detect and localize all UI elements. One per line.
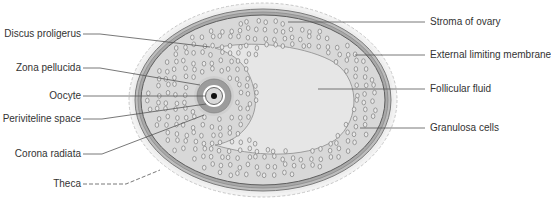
granulosa-cell (166, 90, 170, 95)
granulosa-cell (228, 43, 232, 48)
granulosa-cell (166, 138, 170, 143)
granulosa-cell (172, 67, 176, 72)
granulosa-cell (236, 59, 240, 64)
granulosa-cell (247, 115, 251, 120)
granulosa-cell (264, 37, 268, 42)
granulosa-cell (228, 51, 232, 56)
granulosa-cell (244, 67, 248, 72)
granulosa-cell (247, 52, 251, 57)
granulosa-cell (238, 28, 242, 33)
granulosa-cell (311, 163, 315, 168)
granulosa-cell (248, 102, 252, 107)
granulosa-cell (230, 139, 234, 144)
granulosa-cell (238, 82, 242, 87)
granulosa-cell (237, 51, 241, 56)
granulosa-cell (346, 43, 350, 48)
granulosa-cell (158, 69, 162, 74)
granulosa-cell (203, 146, 207, 151)
granulosa-cell (253, 37, 257, 42)
granulosa-cell (353, 140, 357, 145)
granulosa-cell (148, 107, 152, 112)
granulosa-cell (289, 27, 293, 32)
granulosa-cell (166, 130, 170, 135)
granulosa-cell (236, 67, 240, 72)
granulosa-cell (239, 140, 243, 145)
granulosa-cell (355, 58, 359, 63)
granulosa-cell (255, 149, 259, 154)
granulosa-cell (363, 116, 367, 121)
granulosa-cell (245, 19, 249, 24)
granulosa-cell (191, 125, 195, 130)
granulosa-cell (262, 173, 266, 178)
granulosa-cell (176, 138, 180, 143)
granulosa-cell (201, 50, 205, 55)
granulosa-cell (209, 146, 213, 151)
granulosa-cell (301, 164, 305, 169)
granulosa-cell (167, 82, 171, 87)
granulosa-cell (211, 43, 215, 48)
granulosa-cell (354, 124, 358, 129)
label-stroma-of-ovary: Stroma of ovary (430, 16, 501, 28)
granulosa-cell (364, 83, 368, 88)
granulosa-cell (155, 106, 159, 111)
granulosa-cell (236, 131, 240, 136)
label-discus-proligerus: Discus proligerus (4, 28, 81, 40)
granulosa-cell (192, 130, 196, 135)
granulosa-cell (355, 83, 359, 88)
granulosa-cell (184, 85, 188, 90)
granulosa-cell (229, 173, 233, 178)
granulosa-cell (337, 155, 341, 160)
granulosa-cell (192, 51, 196, 56)
granulosa-cell (192, 75, 196, 80)
granulosa-cell (372, 83, 376, 88)
granulosa-cell (182, 146, 186, 151)
granulosa-cell (364, 107, 368, 112)
granulosa-cell (229, 162, 233, 167)
granulosa-cell (326, 45, 330, 50)
granulosa-cell (307, 43, 311, 48)
granulosa-cell (281, 157, 285, 162)
granulosa-cell (353, 52, 357, 57)
granulosa-cell (164, 101, 168, 106)
granulosa-cell (370, 78, 374, 83)
granulosa-cell (202, 165, 206, 170)
granulosa-cell (228, 126, 232, 131)
granulosa-cell (221, 30, 225, 35)
granulosa-cell (346, 139, 350, 144)
granulosa-cell (202, 141, 206, 146)
granulosa-cell (244, 59, 248, 64)
granulosa-cell (192, 61, 196, 66)
granulosa-cell (217, 148, 221, 153)
granulosa-cell (248, 155, 252, 160)
granulosa-cell (173, 148, 177, 153)
granulosa-cell (212, 133, 216, 138)
granulosa-cell (301, 27, 305, 32)
granulosa-cell (165, 123, 169, 128)
granulosa-cell (265, 42, 269, 47)
granulosa-cell (263, 154, 267, 159)
granulosa-cell (308, 34, 312, 39)
granulosa-cell (184, 106, 188, 111)
granulosa-cell (147, 91, 151, 96)
granulosa-cell (192, 42, 196, 47)
granulosa-cell (263, 27, 267, 32)
granulosa-cell (175, 132, 179, 137)
granulosa-cell (184, 66, 188, 71)
granulosa-cell (226, 67, 230, 72)
granulosa-cell (219, 133, 223, 138)
granulosa-cell (182, 58, 186, 63)
label-periviteline-space: Periviteline space (3, 113, 81, 125)
granulosa-cell (218, 126, 222, 131)
granulosa-cell (155, 123, 159, 128)
granulosa-cell (246, 76, 250, 81)
granulosa-cell (255, 46, 259, 51)
granulosa-cell (273, 37, 277, 42)
granulosa-cell (221, 155, 225, 160)
granulosa-cell (248, 138, 252, 143)
granulosa-cell (338, 52, 342, 57)
granulosa-cell (238, 165, 242, 170)
granulosa-cell (166, 114, 170, 119)
granulosa-cell (236, 171, 240, 176)
granulosa-cell (174, 46, 178, 51)
granulosa-cell (202, 61, 206, 66)
